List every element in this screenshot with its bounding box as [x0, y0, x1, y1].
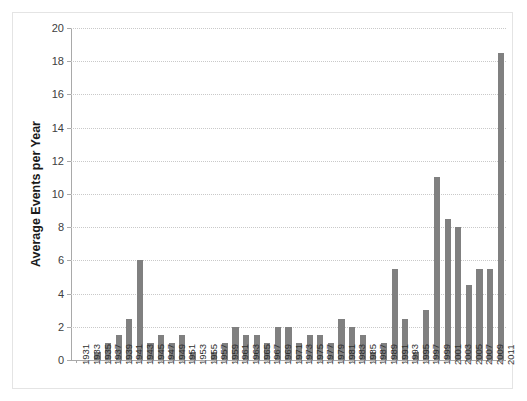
x-axis-tick-mark [151, 360, 152, 363]
x-axis-tick-label: 2009 [494, 344, 505, 365]
x-axis-tick-mark [310, 360, 311, 363]
x-axis-tick-label: 2003 [462, 344, 473, 365]
x-axis-tick-mark [405, 360, 406, 363]
gridline [71, 94, 506, 95]
x-axis-tick-mark [140, 360, 141, 363]
y-axis-tick-label: 18 [52, 55, 64, 67]
x-axis-tick-mark [246, 360, 247, 363]
x-axis-tick-label: 1961 [239, 344, 250, 365]
y-axis-tick-mark [67, 128, 71, 129]
x-axis-tick-label: 1993 [409, 344, 420, 365]
gridline [71, 128, 506, 129]
x-axis-tick-label: 1937 [112, 344, 123, 365]
y-axis-tick-mark [67, 260, 71, 261]
x-axis-tick-label: 1953 [197, 344, 208, 365]
x-axis-tick-mark [108, 360, 109, 363]
y-axis-tick-mark [67, 194, 71, 195]
x-axis-tick-label: 1933 [91, 344, 102, 365]
gridline [71, 161, 506, 162]
x-axis-tick-mark [437, 360, 438, 363]
x-axis-tick-label: 1947 [165, 344, 176, 365]
bar [445, 219, 451, 360]
x-axis-tick-mark [193, 360, 194, 363]
x-axis-tick-mark [172, 360, 173, 363]
bar [455, 227, 461, 360]
x-axis-tick-mark [352, 360, 353, 363]
gridline [71, 28, 506, 29]
y-axis-tick-mark [67, 94, 71, 95]
x-axis-tick-label: 1957 [218, 344, 229, 365]
x-axis-tick-label: 1979 [335, 344, 346, 365]
y-axis-tick-mark [67, 161, 71, 162]
y-axis-tick-mark [67, 61, 71, 62]
x-axis-tick-label: 1951 [186, 344, 197, 365]
y-axis-tick-label: 16 [52, 88, 64, 100]
y-axis-tick-label: 8 [58, 221, 64, 233]
x-axis-tick-label: 1945 [155, 344, 166, 365]
y-axis-tick-label: 10 [52, 188, 64, 200]
y-axis-tick-label: 14 [52, 122, 64, 134]
x-axis-tick-label: 1999 [441, 344, 452, 365]
x-axis-tick-label: 1935 [102, 344, 113, 365]
x-axis-tick-label: 1997 [430, 344, 441, 365]
x-axis-tick-mark [395, 360, 396, 363]
x-axis-tick-label: 1989 [388, 344, 399, 365]
x-axis-tick-label: 2011 [505, 345, 516, 365]
x-axis-tick-mark [119, 360, 120, 363]
y-axis-tick-label: 6 [58, 254, 64, 266]
x-axis-tick-mark [416, 360, 417, 363]
bar [434, 177, 440, 360]
gridline [71, 194, 506, 195]
plot-area: 02468101214161820 1931193319351937193919… [71, 28, 506, 360]
x-axis-tick-label: 1991 [399, 344, 410, 365]
x-axis-tick-label: 1941 [133, 344, 144, 365]
x-axis-tick-mark [267, 360, 268, 363]
x-axis-tick-label: 1955 [208, 344, 219, 365]
x-axis-tick-label: 1963 [250, 344, 261, 365]
x-axis-tick-mark [257, 360, 258, 363]
x-axis-tick-mark [490, 360, 491, 363]
x-axis-tick-label: 1983 [356, 344, 367, 365]
x-axis-tick-mark [235, 360, 236, 363]
y-axis-tick-mark [67, 327, 71, 328]
x-axis-tick-label: 1987 [377, 344, 388, 365]
x-axis-tick-mark [501, 360, 502, 363]
x-axis-tick-label: 1971 [293, 344, 304, 365]
x-axis-tick-mark [204, 360, 205, 363]
x-axis-tick-mark [384, 360, 385, 363]
x-axis-tick-mark [278, 360, 279, 363]
y-axis-tick-label: 20 [52, 22, 64, 34]
x-axis-tick-mark [320, 360, 321, 363]
y-axis-tick-label: 12 [52, 155, 64, 167]
x-axis-tick-label: 1943 [144, 344, 155, 365]
x-axis-tick-mark [363, 360, 364, 363]
x-axis-tick-mark [458, 360, 459, 363]
x-axis-tick-mark [289, 360, 290, 363]
x-axis-tick-mark [182, 360, 183, 363]
x-axis-tick-label: 1931 [80, 344, 91, 365]
x-axis-tick-label: 1973 [303, 344, 314, 365]
gridline [71, 61, 506, 62]
x-axis-tick-label: 1969 [282, 344, 293, 365]
x-axis-tick-mark [448, 360, 449, 363]
x-axis-tick-label: 1965 [261, 344, 272, 365]
x-axis-tick-label: 2007 [483, 344, 494, 365]
x-axis-tick-mark [76, 360, 77, 363]
x-axis-tick-label: 1967 [271, 344, 282, 365]
x-axis-tick-mark [331, 360, 332, 363]
y-axis-tick-mark [67, 227, 71, 228]
x-axis-tick-mark [214, 360, 215, 363]
x-axis-tick-mark [342, 360, 343, 363]
x-axis-tick-mark [299, 360, 300, 363]
chart-frame: Average Events per Year 0246810121416182… [12, 12, 513, 389]
x-axis-tick-mark [225, 360, 226, 363]
y-axis-tick-mark [67, 360, 71, 361]
y-axis-title-label: Average Events per Year [29, 121, 43, 267]
gridline [71, 227, 506, 228]
y-axis-tick-mark [67, 28, 71, 29]
x-axis-tick-mark [98, 360, 99, 363]
y-axis-tick-label: 2 [58, 321, 64, 333]
x-axis-tick-mark [373, 360, 374, 363]
x-axis-tick-mark [161, 360, 162, 363]
x-axis-tick-label: 2001 [452, 344, 463, 365]
